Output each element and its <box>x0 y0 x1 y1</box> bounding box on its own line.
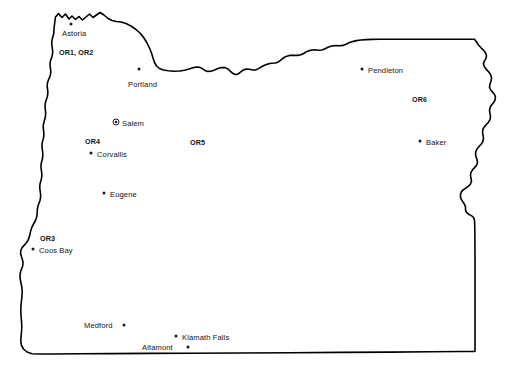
state-boundary-path <box>20 13 496 355</box>
city-label-medford: Medford <box>84 321 113 330</box>
oregon-map: AstoriaPortlandSalemCorvallisEugeneCoos … <box>0 0 511 374</box>
city-label-baker: Baker <box>426 138 446 147</box>
city-label-salem: Salem <box>122 119 144 128</box>
city-label-eugene: Eugene <box>110 190 137 199</box>
city-label-corvallis: Corvallis <box>97 150 127 159</box>
city-label-altamont: Altamont <box>142 343 173 352</box>
region-label-or4: OR4 <box>85 137 100 146</box>
region-label-or3: OR3 <box>40 234 55 243</box>
region-label-or1-or2: OR1, OR2 <box>59 48 93 57</box>
region-label-or6: OR6 <box>412 95 427 104</box>
city-label-coos-bay: Coos Bay <box>39 246 73 255</box>
region-label-or5: OR5 <box>190 138 205 147</box>
city-label-astoria: Astoria <box>62 29 86 38</box>
city-label-klamath-falls: Klamath Falls <box>182 333 229 342</box>
city-label-pendleton: Pendleton <box>368 66 403 75</box>
city-label-portland: Portland <box>128 80 157 89</box>
